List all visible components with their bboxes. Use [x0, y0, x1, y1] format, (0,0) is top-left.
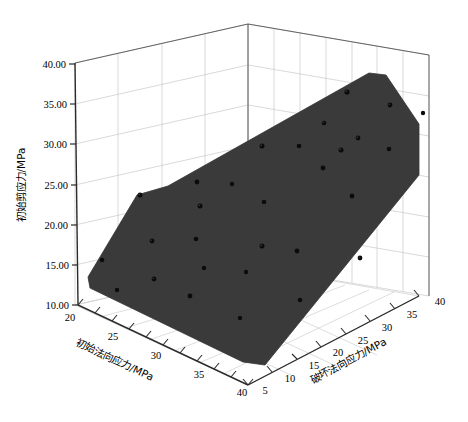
- z-tick-label: 10.00: [45, 300, 69, 311]
- y-tick-label: 10: [285, 373, 296, 384]
- x-tick-label: 40: [237, 387, 248, 398]
- z-axis-title: 初始剪应力/MPa: [15, 148, 27, 223]
- x-tick-label: 20: [65, 312, 76, 323]
- y-axis-title: 破坏法向应力/MPa: [308, 335, 389, 385]
- z-tick-label: 35.00: [43, 99, 67, 110]
- plot-canvas: 40.00 35.00 30.00 25.00 20.00 15.00 10.0…: [0, 0, 468, 422]
- z-axis: 40.00 35.00 30.00 25.00 20.00 15.00 10.0…: [15, 59, 78, 311]
- z-tick-label: 25.00: [44, 180, 68, 191]
- y-tick-label: 40: [435, 296, 446, 307]
- y-tick-label: 30: [382, 322, 393, 333]
- z-tick-label: 20.00: [44, 220, 68, 231]
- z-tick-label: 40.00: [42, 59, 66, 70]
- y-tick-label: 5: [262, 385, 267, 396]
- figure-3d-surface-plot: 40.00 35.00 30.00 25.00 20.00 15.00 10.0…: [0, 0, 468, 422]
- z-tick-label: 30.00: [43, 139, 67, 150]
- x-tick-label: 25: [108, 331, 119, 342]
- y-tick-label: 35: [407, 309, 418, 320]
- x-axis-title: 初始法向应力/MPa: [74, 336, 156, 383]
- x-tick-label: 35: [194, 369, 205, 380]
- x-tick-label: 30: [151, 350, 162, 361]
- z-tick-label: 15.00: [45, 260, 69, 271]
